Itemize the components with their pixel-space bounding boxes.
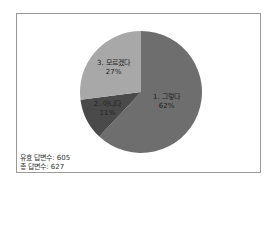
slice-name: 1. 그렇다 xyxy=(153,93,180,102)
slice-label-unknown: 3. 모르겠다 27% xyxy=(97,59,130,77)
slice-label-yes: 1. 그렇다 62% xyxy=(153,93,180,111)
slice-name: 2. 아니다 xyxy=(94,100,121,109)
slice-label-no: 2. 아니다 11% xyxy=(94,100,121,118)
slice-pct: 62% xyxy=(153,102,180,111)
slice-pct: 27% xyxy=(97,68,130,77)
slice-name: 3. 모르겠다 xyxy=(97,59,130,68)
slice-pct: 11% xyxy=(94,109,121,118)
total-responses-note: 총 답변수: 627 xyxy=(20,161,64,171)
